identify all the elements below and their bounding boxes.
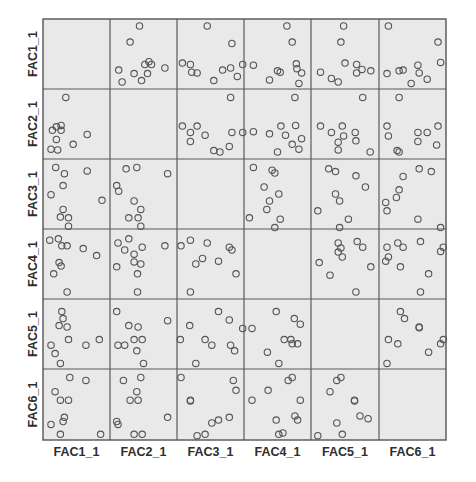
scatter-cell — [43, 299, 110, 369]
scatter-cell — [43, 369, 110, 440]
y-label-fac4: FAC4_1 — [26, 241, 40, 287]
scatter-cell — [244, 19, 311, 89]
diagonal-cell — [43, 19, 110, 89]
y-label-fac2: FAC2_1 — [26, 101, 40, 147]
scatter-cell — [379, 159, 446, 229]
diagonal-cell — [311, 299, 379, 369]
x-label-fac2: FAC2_1 — [121, 445, 167, 459]
diagonal-cell — [379, 369, 446, 440]
x-label-fac6: FAC6_1 — [390, 445, 436, 459]
x-axis-labels: FAC1_1 FAC2_1 FAC3_1 FAC4_1 FAC5_1 FAC6_… — [54, 445, 436, 459]
diagonal-cell — [177, 159, 244, 229]
scatter-cell — [244, 369, 311, 440]
y-label-fac3: FAC3_1 — [26, 171, 40, 217]
scatter-cell — [379, 229, 446, 299]
scatter-cell — [379, 299, 446, 369]
scatter-cell — [43, 89, 110, 159]
scatter-cell — [177, 89, 244, 159]
scatter-cell — [177, 299, 244, 369]
scatter-cell — [244, 299, 311, 369]
scatterplot-matrix: FAC1_1 FAC2_1 FAC3_1 FAC4_1 FAC5_1 FAC6_… — [0, 0, 476, 482]
x-label-fac5: FAC5_1 — [322, 445, 368, 459]
scatter-cell — [311, 19, 379, 89]
x-label-fac1: FAC1_1 — [54, 445, 100, 459]
x-label-fac3: FAC3_1 — [188, 445, 234, 459]
y-label-fac1: FAC1_1 — [26, 31, 40, 77]
scatter-cell — [177, 19, 244, 89]
x-label-fac4: FAC4_1 — [255, 445, 301, 459]
scatter-cell — [110, 299, 177, 369]
scatter-cell — [177, 369, 244, 440]
y-label-fac6: FAC6_1 — [26, 382, 40, 428]
y-axis-labels: FAC1_1 FAC2_1 FAC3_1 FAC4_1 FAC5_1 FAC6_… — [26, 31, 40, 427]
diagonal-cell — [110, 89, 177, 159]
y-label-fac5: FAC5_1 — [26, 311, 40, 357]
scatter-cell — [311, 369, 379, 440]
diagonal-cell — [244, 229, 311, 299]
